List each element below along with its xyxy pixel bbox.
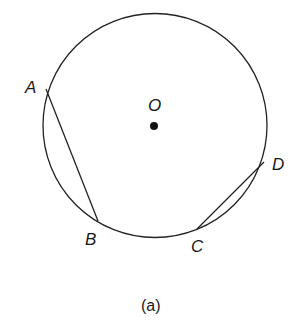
caption: (a): [141, 297, 161, 314]
chord-cd: [197, 162, 264, 229]
label-a: A: [24, 78, 36, 97]
label-b: B: [85, 230, 96, 249]
circle-chords-diagram: O A B C D (a): [0, 0, 303, 329]
label-d: D: [272, 155, 284, 174]
label-c: C: [191, 237, 204, 256]
label-o: O: [148, 96, 161, 115]
center-point: [150, 122, 158, 130]
